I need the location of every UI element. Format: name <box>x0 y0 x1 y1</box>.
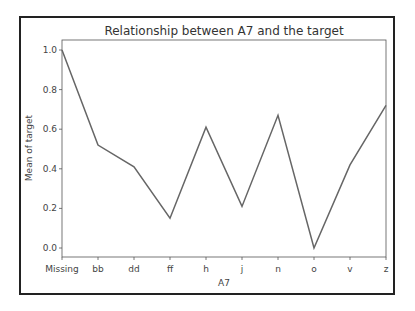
chart-title: Relationship between A7 and the target <box>104 24 344 38</box>
x-tick-label: dd <box>128 264 139 274</box>
y-axis: 0.00.20.40.60.81.0 <box>43 45 62 253</box>
line-chart: Relationship between A7 and the target 0… <box>0 0 415 311</box>
y-tick-label: 0.0 <box>43 243 58 253</box>
plot-area <box>62 40 386 257</box>
x-tick-label: z <box>384 264 389 274</box>
y-tick-label: 1.0 <box>43 45 58 55</box>
y-axis-label: Mean of target <box>24 114 34 181</box>
y-tick-label: 0.4 <box>43 164 58 174</box>
y-tick-label: 0.6 <box>43 124 58 134</box>
x-tick-label: v <box>347 264 353 274</box>
x-tick-label: o <box>311 264 317 274</box>
x-tick-label: ff <box>167 264 174 274</box>
x-tick-label: j <box>240 264 244 274</box>
y-tick-label: 0.8 <box>43 85 58 95</box>
x-axis-label: A7 <box>218 278 230 288</box>
x-tick-label: h <box>203 264 209 274</box>
data-line <box>62 50 386 248</box>
x-tick-label: Missing <box>45 264 79 274</box>
x-axis: Missingbbddffhjnovz <box>45 257 388 274</box>
x-tick-label: n <box>275 264 281 274</box>
y-tick-label: 0.2 <box>43 203 57 213</box>
x-tick-label: bb <box>92 264 104 274</box>
